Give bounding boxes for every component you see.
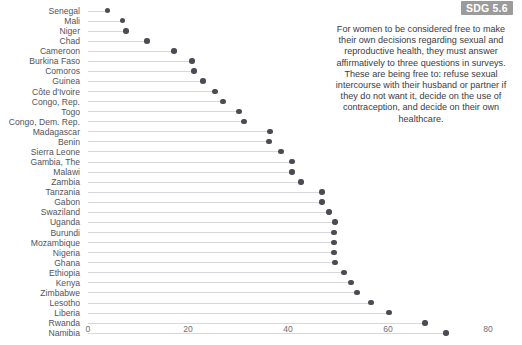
chart-row: Madagascar: [0, 127, 522, 137]
category-label: Benin: [0, 137, 80, 147]
value-stem: [88, 81, 203, 82]
chart-row: Malawi: [0, 167, 522, 177]
category-label: Togo: [0, 107, 80, 117]
chart-row: Gabon: [0, 197, 522, 207]
value-stem: [88, 282, 351, 283]
value-dot: [191, 68, 196, 73]
x-tick-label: 40: [283, 324, 293, 334]
chart-row: Tanzania: [0, 187, 522, 197]
value-stem: [88, 192, 322, 193]
value-dot: [105, 8, 110, 13]
value-stem: [88, 292, 357, 293]
value-dot: [326, 209, 331, 214]
value-dot: [319, 189, 324, 194]
value-dot: [171, 48, 176, 53]
category-label: Chad: [0, 36, 80, 46]
chart-row: Lesotho: [0, 298, 522, 308]
value-dot: [278, 149, 283, 154]
category-label: Zambia: [0, 177, 80, 187]
category-label: Sierra Leone: [0, 147, 80, 157]
category-label: Madagascar: [0, 127, 80, 137]
value-stem: [88, 111, 239, 112]
chart-row: Ethiopia: [0, 268, 522, 278]
x-tick-label: 80: [483, 324, 493, 334]
chart-row: Ghana: [0, 258, 522, 268]
chart-row: Zimbabwe: [0, 288, 522, 298]
category-label: Senegal: [0, 6, 80, 16]
chart-row: Gambia, The: [0, 157, 522, 167]
value-dot: [241, 119, 246, 124]
value-stem: [88, 242, 334, 243]
value-dot: [189, 58, 194, 63]
category-label: Comoros: [0, 66, 80, 76]
value-stem: [88, 101, 223, 102]
value-stem: [88, 31, 126, 32]
value-stem: [88, 252, 334, 253]
chart-row: Benin: [0, 137, 522, 147]
chart-row: Sierra Leone: [0, 147, 522, 157]
category-label: Nigeria: [0, 248, 80, 258]
value-dot: [289, 169, 294, 174]
category-label: Zimbabwe: [0, 288, 80, 298]
value-dot: [200, 78, 205, 83]
chart-row: Congo, Rep.: [0, 97, 522, 107]
category-label: Cameroon: [0, 46, 80, 56]
chart-row: Burundi: [0, 228, 522, 238]
lollipop-plot: SenegalMaliNigerChadCameroonBurkina Faso…: [0, 0, 522, 345]
value-stem: [88, 91, 215, 92]
category-label: Lesotho: [0, 298, 80, 308]
value-stem: [88, 172, 292, 173]
value-dot: [331, 240, 336, 245]
chart-row: Mali: [0, 16, 522, 26]
value-stem: [88, 61, 192, 62]
category-label: Swaziland: [0, 207, 80, 217]
value-stem: [88, 212, 329, 213]
category-label: Mali: [0, 16, 80, 26]
value-dot: [331, 250, 336, 255]
value-stem: [88, 162, 292, 163]
category-label: Liberia: [0, 308, 80, 318]
category-label: Côte d'Ivoire: [0, 87, 80, 97]
category-label: Malawi: [0, 167, 80, 177]
category-label: Uganda: [0, 217, 80, 227]
value-stem: [88, 262, 335, 263]
category-label: Ethiopia: [0, 268, 80, 278]
value-stem: [88, 71, 194, 72]
value-dot: [368, 300, 373, 305]
chart-row: Uganda: [0, 217, 522, 227]
value-dot: [267, 129, 272, 134]
value-stem: [88, 182, 301, 183]
value-stem: [88, 121, 244, 122]
chart-row: Guinea: [0, 76, 522, 86]
chart-row: Togo: [0, 107, 522, 117]
chart-row: Burkina Faso: [0, 56, 522, 66]
value-stem: [88, 232, 334, 233]
chart-row: Mozambique: [0, 238, 522, 248]
chart-row: Kenya: [0, 278, 522, 288]
value-dot: [331, 230, 336, 235]
chart-row: Liberia: [0, 308, 522, 318]
x-tick-label: 60: [383, 324, 393, 334]
category-label: Ghana: [0, 258, 80, 268]
value-stem: [88, 21, 123, 22]
value-stem: [88, 202, 322, 203]
value-dot: [289, 159, 294, 164]
chart-row: Nigeria: [0, 248, 522, 258]
value-dot: [341, 270, 346, 275]
value-dot: [144, 38, 149, 43]
x-tick-label: 0: [86, 324, 91, 334]
value-dot: [220, 99, 225, 104]
value-stem: [88, 272, 344, 273]
value-dot: [266, 139, 271, 144]
value-stem: [88, 41, 147, 42]
category-label: Tanzania: [0, 187, 80, 197]
category-label: Guinea: [0, 76, 80, 86]
value-dot: [332, 260, 337, 265]
x-tick-label: 20: [183, 324, 193, 334]
chart-row: Niger: [0, 26, 522, 36]
value-dot: [298, 179, 303, 184]
value-stem: [88, 222, 335, 223]
chart-row: Zambia: [0, 177, 522, 187]
category-label: Gambia, The: [0, 157, 80, 167]
value-dot: [348, 280, 353, 285]
